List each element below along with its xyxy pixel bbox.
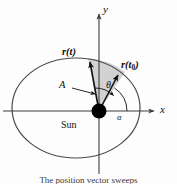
figure-caption-text: The position vector sweeps	[0, 175, 177, 184]
theta-label: θ	[106, 80, 111, 90]
alpha-arc	[115, 88, 128, 111]
figure-caption: The position vector sweeps	[0, 175, 177, 184]
sun-marker	[92, 104, 107, 119]
alpha-label: α	[117, 113, 121, 122]
figure-canvas	[0, 0, 177, 184]
orbit-figure: y x r(t) r(t0) A θ α Sun The position ve…	[0, 0, 177, 184]
y-axis-label: y	[103, 4, 108, 15]
vector-r-t0-label: r(t0)	[121, 60, 139, 71]
x-axis-label: x	[160, 104, 165, 115]
orbit-ellipse	[12, 58, 140, 158]
sun-label: Sun	[61, 120, 77, 130]
area-label: A	[59, 80, 65, 91]
area-leader-arrow	[72, 88, 95, 94]
vector-r-t-label: r(t)	[62, 47, 76, 58]
vector-r-t-argument: (t)	[66, 46, 76, 57]
vector-r-t0-argument-close: )	[135, 59, 139, 70]
